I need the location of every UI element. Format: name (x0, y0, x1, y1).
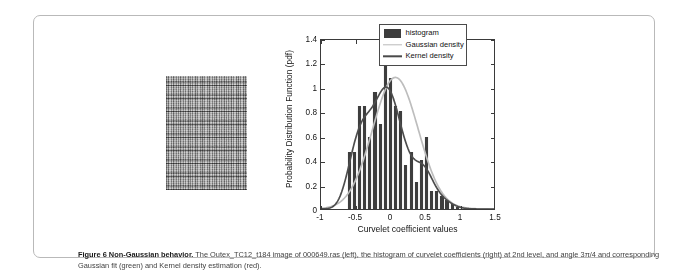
y-tick-label: 1.4 (306, 35, 317, 44)
figure-card: Probability Distribution Function (pdf) … (33, 15, 655, 258)
x-tick-mark (426, 206, 427, 210)
figure-caption: Figure 6 Non-Gaussian behavior. The Oute… (78, 249, 678, 270)
y-tick-mark (491, 162, 495, 163)
y-axis-label: Probability Distribution Function (pdf) (285, 31, 299, 207)
caption-title: Figure 6 Non-Gaussian behavior. (78, 250, 193, 259)
x-tick-label: 0.5 (419, 213, 430, 222)
legend-patch-icon (383, 29, 402, 38)
legend-item: histogram (383, 28, 463, 40)
x-tick-label: 1.5 (489, 213, 500, 222)
x-tick-label: 0 (388, 213, 393, 222)
y-tick-mark (491, 187, 495, 188)
x-tick-label: -1 (316, 213, 323, 222)
y-tick-label: 1.2 (306, 59, 317, 68)
legend-label: Gaussian density (406, 41, 464, 49)
y-tick-mark (491, 40, 495, 41)
x-tick-mark (391, 206, 392, 210)
histogram-plot: Probability Distribution Function (pdf) … (279, 21, 514, 246)
x-tick-label: -0.5 (348, 213, 362, 222)
y-tick-mark (321, 162, 325, 163)
chart-legend: histogramGaussian densityKernel density (379, 24, 467, 66)
legend-line-icon (383, 52, 402, 61)
texture-noise-overlay (166, 76, 247, 190)
y-tick-label: 1 (312, 83, 317, 92)
outex-texture-image (166, 76, 247, 190)
x-tick-mark (356, 206, 357, 210)
legend-label: Kernel density (406, 52, 454, 60)
y-tick-mark (491, 89, 495, 90)
y-tick-mark (321, 113, 325, 114)
x-tick-label: 1 (458, 213, 463, 222)
x-tick-mark (356, 40, 357, 44)
x-tick-mark (321, 40, 322, 44)
gaussian-density-curve (321, 77, 494, 209)
y-tick-label: 0.2 (306, 181, 317, 190)
kernel-density-curve (321, 87, 494, 209)
legend-line-icon (383, 40, 402, 49)
y-tick-label: 0.6 (306, 132, 317, 141)
y-tick-mark (321, 187, 325, 188)
y-tick-mark (491, 64, 495, 65)
legend-label: histogram (406, 29, 439, 37)
y-tick-label: 0.4 (306, 157, 317, 166)
y-tick-mark (491, 113, 495, 114)
y-tick-mark (321, 138, 325, 139)
legend-item: Kernel density (383, 51, 463, 63)
y-tick-mark (321, 89, 325, 90)
legend-item: Gaussian density (383, 39, 463, 51)
x-axis-label: Curvelet coefficient values (320, 224, 495, 234)
y-tick-mark (491, 138, 495, 139)
x-tick-mark (461, 206, 462, 210)
y-tick-mark (321, 64, 325, 65)
x-tick-mark (321, 206, 322, 210)
y-tick-label: 0.8 (306, 108, 317, 117)
